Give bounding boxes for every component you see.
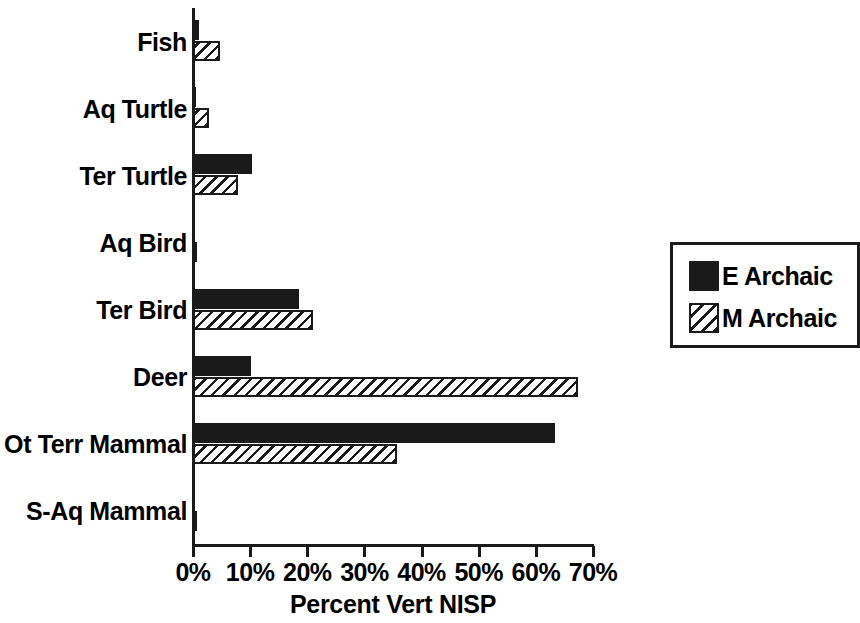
x-axis-tick xyxy=(306,546,309,557)
bar-m-archaic xyxy=(193,108,209,128)
x-axis-tick-label: 50% xyxy=(454,558,503,587)
y-axis-category-label: Fish xyxy=(137,27,187,56)
chart-category-row: Ter Turtle xyxy=(0,142,839,209)
x-axis-tick-label: 0% xyxy=(175,558,210,587)
bar-e-archaic xyxy=(193,289,299,309)
bar-e-archaic xyxy=(193,87,196,107)
x-axis-tick-label: 60% xyxy=(512,558,561,587)
x-axis-tick xyxy=(249,546,252,557)
x-axis-tick xyxy=(421,546,424,557)
bar-m-archaic xyxy=(193,310,313,330)
chart-category-row: S-Aq Mammal xyxy=(0,478,839,545)
x-axis-tick xyxy=(535,546,538,557)
bar-m-archaic xyxy=(193,175,238,195)
bar-e-archaic xyxy=(193,221,195,241)
y-axis-category-label: S-Aq Mammal xyxy=(26,497,187,526)
x-axis-tick xyxy=(363,546,366,557)
bar-e-archaic xyxy=(193,423,555,443)
x-axis-tick-label: 10% xyxy=(226,558,275,587)
y-axis-category-label: Deer xyxy=(133,363,187,392)
x-axis-tick-label: 30% xyxy=(340,558,389,587)
x-axis-tick xyxy=(192,546,195,557)
bar-m-archaic xyxy=(193,242,197,262)
y-axis-category-label: Ter Bird xyxy=(96,296,187,325)
bar-e-archaic xyxy=(193,154,252,174)
bar-m-archaic xyxy=(193,511,197,531)
x-axis-title: Percent Vert NISP xyxy=(193,590,593,619)
bar-e-archaic xyxy=(193,490,195,510)
y-axis-category-label: Aq Bird xyxy=(100,228,187,257)
bar-e-archaic xyxy=(193,356,251,376)
bar-m-archaic xyxy=(193,41,220,61)
y-axis-category-label: Ter Turtle xyxy=(79,161,187,190)
y-axis-category-label: Aq Turtle xyxy=(83,94,187,123)
x-axis-tick xyxy=(592,546,595,557)
x-axis-tick-label: 70% xyxy=(569,558,618,587)
chart-category-row: Ter Bird xyxy=(0,277,839,344)
x-axis-tick-label: 20% xyxy=(283,558,332,587)
x-axis-tick-label: 40% xyxy=(397,558,446,587)
chart-category-row: Aq Bird xyxy=(0,209,839,276)
chart-category-row: Ot Terr Mammal xyxy=(0,411,839,478)
x-axis-tick xyxy=(478,546,481,557)
bar-m-archaic xyxy=(193,444,397,464)
bar-m-archaic xyxy=(193,377,578,397)
chart-category-row: Fish xyxy=(0,8,839,75)
bar-e-archaic xyxy=(193,20,199,40)
chart-category-row: Deer xyxy=(0,344,839,411)
chart-category-row: Aq Turtle xyxy=(0,75,839,142)
y-axis-category-label: Ot Terr Mammal xyxy=(4,430,187,459)
